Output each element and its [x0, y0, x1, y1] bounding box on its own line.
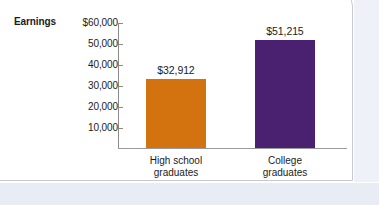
y-tick-label: 40,000 — [18, 59, 118, 70]
y-tick-label: 30,000 — [18, 80, 118, 91]
y-tick-label: 10,000 — [18, 122, 118, 133]
bar-value-high-school-graduates: $32,912 — [136, 64, 216, 76]
category-label-line1: High school — [150, 155, 202, 166]
category-label-line2: graduates — [263, 167, 307, 178]
category-label-line2: graduates — [154, 167, 198, 178]
y-tick-30000: 30,000 — [14, 80, 118, 92]
y-tick-label: 50,000 — [18, 38, 118, 49]
y-tick-label: 20,000 — [18, 101, 118, 112]
y-tick-60000: $60,000 — [14, 17, 118, 29]
y-tick-mark — [118, 44, 123, 45]
bar-college-graduates[interactable] — [255, 40, 315, 148]
y-tick-50000: 50,000 — [14, 38, 118, 50]
category-label-high-school-graduates: High school graduates — [136, 155, 216, 179]
y-tick-mark — [118, 23, 123, 24]
category-label-college-graduates: College graduates — [245, 155, 325, 179]
bar-high-school-graduates[interactable] — [146, 79, 206, 148]
y-tick-20000: 20,000 — [14, 101, 118, 113]
y-tick-40000: 40,000 — [14, 59, 118, 71]
y-tick-mark — [118, 128, 123, 129]
y-tick-mark — [118, 86, 123, 87]
category-label-line1: College — [268, 155, 302, 166]
bar-chart: Earnings $60,000 50,000 40,000 30,000 20… — [0, 0, 379, 205]
y-tick-10000: 10,000 — [14, 122, 118, 134]
y-tick-mark — [118, 65, 123, 66]
y-tick-mark — [118, 107, 123, 108]
y-tick-label: $60,000 — [18, 17, 118, 28]
bar-value-college-graduates: $51,215 — [245, 25, 325, 37]
x-axis-baseline — [118, 148, 347, 149]
figure-frame: Earnings $60,000 50,000 40,000 30,000 20… — [0, 0, 379, 205]
